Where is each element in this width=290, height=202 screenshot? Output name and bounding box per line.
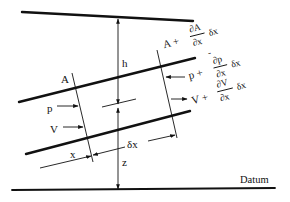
centerline-tick [102, 99, 136, 107]
velocity-out-base: V + [190, 90, 209, 106]
free-surface-line [22, 12, 193, 21]
z-label: z [122, 156, 127, 168]
velocity-out-tail: δx [235, 80, 247, 92]
dx-dimension-line-right [148, 135, 175, 141]
area-out-tail: δx [207, 26, 219, 38]
h-label: h [122, 57, 128, 69]
x-dimension-line [40, 156, 91, 168]
area-out-denominator: ∂x [191, 36, 203, 48]
area-out-expression: A + ∂A ∂x δx [160, 18, 221, 55]
pressure-out-base: p + [187, 66, 204, 81]
pressure-out-tail: δx [230, 58, 242, 70]
pressure-out-expression: p + - ∂p ∂x δx [183, 41, 243, 86]
pressure-out-numerator: ∂p [212, 54, 224, 66]
datum-line [12, 188, 275, 190]
pressure-in-label: p [47, 102, 53, 114]
velocity-in-label: V [50, 123, 58, 135]
velocity-out-denominator: ∂x [219, 91, 231, 103]
area-out-base: A + [162, 35, 181, 51]
flow-element-diagram: h z x δx Datum A p V A + ∂A ∂x δx p + - … [0, 0, 290, 202]
upper-pipe-wall [19, 58, 195, 102]
dx-dimension-line-left [93, 147, 125, 155]
area-in-label: A [61, 73, 69, 85]
velocity-out-numerator: ∂V [215, 77, 229, 90]
datum-label: Datum [240, 174, 269, 185]
dx-label: δx [127, 138, 138, 150]
x-label: x [70, 148, 76, 160]
area-out-numerator: ∂A [188, 22, 202, 35]
